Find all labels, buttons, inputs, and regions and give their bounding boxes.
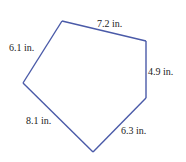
label-upper-left: 6.1 in.: [9, 42, 34, 53]
pentagon-diagram: 7.2 in. 4.9 in. 6.3 in. 8.1 in. 6.1 in.: [0, 0, 186, 162]
label-top: 7.2 in.: [97, 18, 122, 29]
label-lower-right: 6.3 in.: [121, 125, 146, 136]
label-right: 4.9 in.: [148, 66, 173, 77]
label-lower-left: 8.1 in.: [26, 115, 51, 126]
